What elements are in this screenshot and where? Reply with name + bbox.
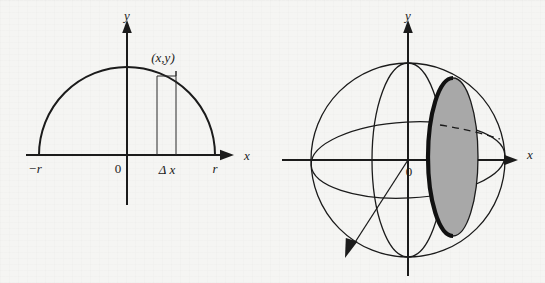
left-endpoint-label: −r (28, 161, 43, 176)
point-label: (x,y) (151, 50, 174, 65)
left-origin-label: 0 (115, 161, 122, 176)
right-z-axis-line (352, 160, 408, 247)
right-origin-label: 0 (406, 164, 413, 179)
figure-page: (x,y) Δ x −r r 0 y x (0, 0, 545, 283)
right-x-axis-label: x (526, 147, 533, 162)
right-x-axis-arrowhead (504, 155, 518, 165)
right-figure-sphere: y x 0 (272, 0, 545, 283)
right-x-axis (282, 155, 518, 165)
left-figure-semicircle: (x,y) Δ x −r r 0 y x (0, 0, 272, 283)
left-x-axis-arrowhead (220, 150, 234, 160)
right-endpoint-label: r (212, 161, 218, 176)
strip-width-label: Δ x (158, 162, 176, 177)
left-x-axis-label: x (243, 148, 250, 163)
right-y-axis (403, 20, 413, 276)
left-y-axis-label: y (122, 8, 130, 23)
left-y-axis (122, 20, 132, 205)
riemann-strip (157, 71, 176, 155)
left-x-axis (26, 150, 234, 160)
right-y-axis-label: y (403, 8, 411, 23)
